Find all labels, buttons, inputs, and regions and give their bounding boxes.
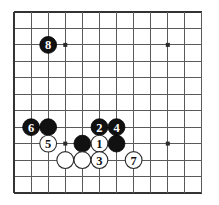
stone-disc: [40, 37, 57, 54]
stone-black-6[interactable]: 6: [23, 119, 40, 136]
stone-white-3[interactable]: 3: [91, 152, 108, 169]
stone-disc: [108, 119, 125, 136]
stone-disc: [74, 135, 91, 152]
stone-disc: [23, 119, 40, 136]
stone-black-plain-a[interactable]: [40, 119, 57, 136]
stone-white-7[interactable]: 7: [125, 152, 142, 169]
stone-white-1[interactable]: 1: [91, 135, 108, 152]
stone-disc: [108, 135, 125, 152]
stone-disc: [40, 119, 57, 136]
stone-white-plain-a[interactable]: [57, 152, 74, 169]
stone-black-4[interactable]: 4: [108, 119, 125, 136]
stone-disc: [91, 135, 108, 152]
star-point-1: [166, 43, 170, 47]
go-board-diagram: 82465137: [0, 0, 219, 205]
stone-disc: [40, 135, 57, 152]
stone-black-plain-b[interactable]: [74, 135, 91, 152]
star-point-2: [63, 142, 67, 146]
stone-black-8[interactable]: 8: [40, 37, 57, 54]
stone-white-5[interactable]: 5: [40, 135, 57, 152]
stone-black-plain-c[interactable]: [108, 135, 125, 152]
stone-disc: [91, 119, 108, 136]
stone-disc: [91, 152, 108, 169]
stone-black-2[interactable]: 2: [91, 119, 108, 136]
star-point-3: [166, 142, 170, 146]
stone-disc: [125, 152, 142, 169]
stone-disc: [74, 152, 91, 169]
stone-white-plain-b[interactable]: [74, 152, 91, 169]
go-board-canvas[interactable]: 82465137: [0, 0, 219, 205]
stone-disc: [57, 152, 74, 169]
star-point-0: [63, 43, 67, 47]
